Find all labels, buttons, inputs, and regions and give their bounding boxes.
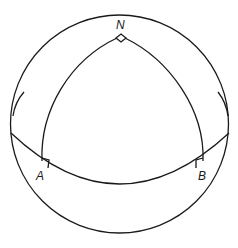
right-angle-marker-b — [196, 158, 203, 168]
sphere-outline — [11, 15, 229, 233]
label-b: B — [198, 169, 206, 183]
label-a: A — [35, 169, 44, 183]
meridian-arc-na — [42, 38, 117, 161]
right-angle-marker-n — [116, 34, 126, 42]
sphere-diagram: N A B — [0, 0, 238, 248]
label-north: N — [116, 18, 125, 32]
meridian-arc-nb — [125, 38, 203, 161]
